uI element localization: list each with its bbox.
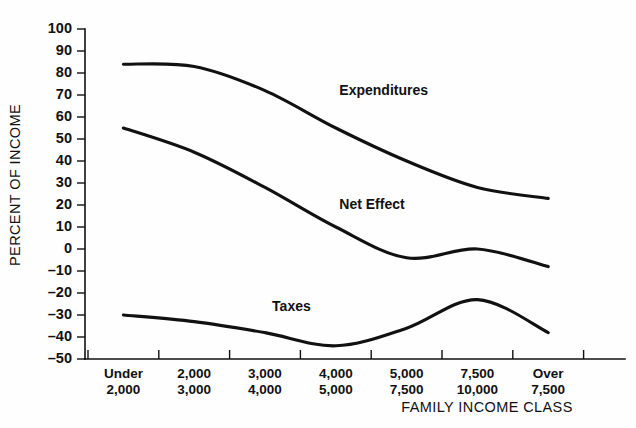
y-tick-label: 50 xyxy=(56,130,72,146)
series-label-expenditures: Expenditures xyxy=(339,82,428,98)
x-axis-title: FAMILY INCOME CLASS xyxy=(401,399,572,415)
x-tick-label-bottom: 10,000 xyxy=(457,382,498,397)
y-tick-label: 60 xyxy=(56,108,72,124)
x-tick-label-top: 2,000 xyxy=(177,366,211,381)
series-label-taxes: Taxes xyxy=(272,298,311,314)
y-tick-label: –40 xyxy=(48,328,72,344)
y-axis-tick-labels: 1009080706050403020100–10–20–30–40–50 xyxy=(48,20,72,366)
x-tick-label-top: 3,000 xyxy=(248,366,282,381)
y-tick-label: –30 xyxy=(48,306,72,322)
series-curves xyxy=(123,64,548,346)
y-tick-label: 20 xyxy=(56,196,72,212)
x-tick-label-bottom: 5,000 xyxy=(319,382,353,397)
y-tick-label: 40 xyxy=(56,152,72,168)
y-axis-title-group: PERCENT OF INCOME xyxy=(7,104,23,266)
y-axis-ticks xyxy=(77,29,85,359)
y-tick-label: 90 xyxy=(56,42,72,58)
x-axis-tick-labels: Under2,0002,0003,0003,0004,0004,0005,000… xyxy=(104,366,565,397)
x-tick-label-bottom: 7,500 xyxy=(390,382,424,397)
x-tick-label-top: Under xyxy=(104,366,144,381)
series-inline-labels: ExpendituresNet EffectTaxes xyxy=(272,82,428,314)
x-tick-label-bottom: 7,500 xyxy=(531,382,565,397)
y-tick-label: 0 xyxy=(64,240,72,256)
y-tick-label: 10 xyxy=(56,218,72,234)
x-tick-label-bottom: 2,000 xyxy=(107,382,141,397)
series-line-net-effect xyxy=(123,128,548,267)
y-axis-title: PERCENT OF INCOME xyxy=(7,104,23,266)
x-axis-ticks xyxy=(88,350,584,359)
series-line-expenditures xyxy=(123,64,548,199)
y-tick-label: 80 xyxy=(56,64,72,80)
y-tick-label: –10 xyxy=(48,262,72,278)
chart-container: PERCENT OF INCOME 1009080706050403020100… xyxy=(0,0,636,428)
y-tick-label: 70 xyxy=(56,86,72,102)
x-tick-label-top: Over xyxy=(533,366,565,381)
income-percent-line-chart: PERCENT OF INCOME 1009080706050403020100… xyxy=(0,0,636,428)
y-tick-label: 30 xyxy=(56,174,72,190)
y-tick-label: 100 xyxy=(48,20,72,36)
x-tick-label-top: 7,500 xyxy=(461,366,495,381)
x-tick-label-top: 5,000 xyxy=(390,366,424,381)
x-tick-label-bottom: 3,000 xyxy=(177,382,211,397)
x-tick-label-top: 4,000 xyxy=(319,366,353,381)
x-tick-label-bottom: 4,000 xyxy=(248,382,282,397)
series-label-net-effect: Net Effect xyxy=(339,196,405,212)
y-tick-label: –20 xyxy=(48,284,72,300)
y-tick-label: –50 xyxy=(48,350,72,366)
series-line-taxes xyxy=(123,300,548,346)
